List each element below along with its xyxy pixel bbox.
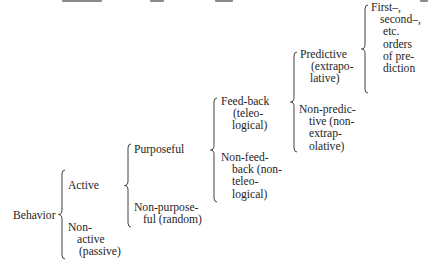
node-purposeful-line: Purposeful <box>134 144 184 156</box>
node-non-active-line: (passive) <box>68 246 121 258</box>
cropped-text-fragment <box>150 0 164 2</box>
node-non-active: Non- active (passive) <box>68 222 121 259</box>
node-orders-line: orders <box>371 39 421 51</box>
node-orders-line: etc. <box>371 26 421 38</box>
node-feedback-line: logical) <box>221 120 269 132</box>
brace-feedback <box>290 52 298 152</box>
node-non-purposeful-line: ful (random) <box>134 214 202 226</box>
left-curly-brace-icon <box>124 144 132 227</box>
node-non-predictive: Non-predic- tive (non- extrap- olative) <box>299 104 356 153</box>
node-predictive: Predictive (extrapo- lative) <box>300 49 354 86</box>
node-non-feedback: Non-feed- back (non- teleo- logical) <box>221 152 282 201</box>
brace-behavior <box>58 170 66 259</box>
left-curly-brace-icon <box>210 98 218 202</box>
cropped-text-fragment <box>420 0 428 2</box>
node-orders-line: diction <box>371 63 421 75</box>
node-feedback: Feed-back (teleo- logical) <box>221 96 269 133</box>
brace-predictive <box>361 5 369 93</box>
node-non-purposeful: Non-purpose- ful (random) <box>134 202 202 226</box>
node-predictive-line: lative) <box>300 73 354 85</box>
cropped-text-fragment <box>215 0 233 2</box>
node-active-line: Active <box>68 180 99 192</box>
brace-purposeful <box>210 98 218 202</box>
node-non-feedback-line: teleo- <box>221 176 282 188</box>
node-behavior: Behavior <box>13 210 56 222</box>
node-behavior-line: Behavior <box>13 210 56 222</box>
left-curly-brace-icon <box>58 170 66 259</box>
node-orders-of-prediction: First–, second–, etc. orders of pre- dic… <box>371 2 421 75</box>
node-active: Active <box>68 180 99 192</box>
left-curly-brace-icon <box>290 52 298 152</box>
node-non-predictive-line: olative) <box>299 141 356 153</box>
cropped-text-fragment <box>62 0 102 2</box>
node-non-feedback-line: logical) <box>221 189 282 201</box>
brace-active <box>124 144 132 227</box>
left-curly-brace-icon <box>361 5 369 93</box>
node-purposeful: Purposeful <box>134 144 184 156</box>
node-non-predictive-line: extrap- <box>299 128 356 140</box>
